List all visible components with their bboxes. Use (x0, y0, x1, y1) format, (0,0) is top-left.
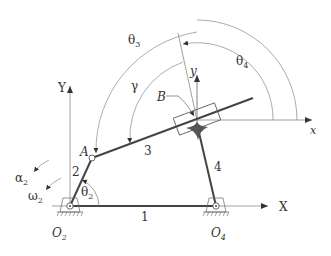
alpha2-arrow (34, 160, 49, 172)
theta4-arc (183, 43, 273, 120)
link-3 (92, 98, 253, 158)
point-o4-label: O4 (211, 226, 226, 242)
link-4-label: 4 (214, 160, 222, 174)
global-x-label: X (279, 200, 288, 214)
omega2-label: ω2 (28, 189, 43, 205)
link-1-label: 1 (141, 210, 149, 224)
link-3-label: 3 (144, 144, 152, 158)
pin-a (89, 155, 95, 161)
point-o2-label: O2 (52, 226, 67, 242)
ground-o4 (203, 198, 229, 216)
omega2-arrow (46, 178, 61, 190)
linkage-diagram: Y X y x A B O2 O4 1 2 3 4 θ2 θ3 θ4 γ α2 … (0, 0, 331, 256)
theta4-label: θ4 (236, 54, 248, 70)
gamma-label: γ (131, 79, 138, 93)
theta3-outer-arc (197, 20, 297, 120)
local-y-label: y (189, 64, 197, 78)
link-2-label: 2 (72, 165, 80, 179)
point-a-label: A (79, 145, 89, 159)
theta3-label: θ3 (128, 33, 140, 49)
local-x-label: x (310, 124, 317, 137)
point-b-label: B (156, 90, 166, 104)
alpha2-label: α2 (15, 171, 28, 187)
global-y-label: Y (57, 81, 67, 95)
slider-pivot-gusset (186, 121, 208, 140)
b-leader-line (166, 96, 194, 116)
